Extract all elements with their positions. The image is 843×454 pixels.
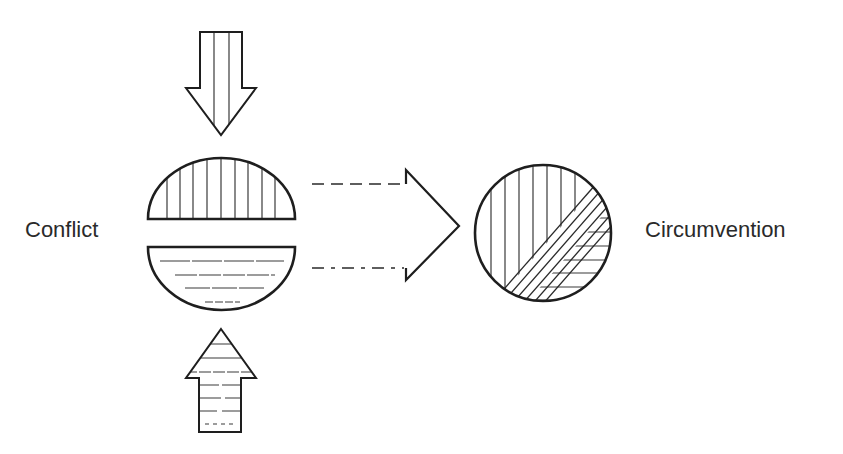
top-half-circle <box>148 150 295 219</box>
bottom-half-circle <box>148 247 295 310</box>
circumvention-label: Circumvention <box>645 219 786 241</box>
conflict-label: Conflict <box>25 219 98 241</box>
result-circle <box>470 150 640 353</box>
up-arrow-icon <box>185 329 257 432</box>
transition-arrow-icon <box>312 170 459 280</box>
down-arrow-icon <box>186 32 256 135</box>
